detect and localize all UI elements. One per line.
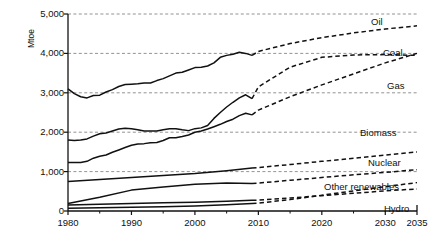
series-line-historical-coal	[68, 95, 252, 141]
series-line-historical-biomass	[68, 168, 252, 181]
x-tick-label: 2010	[238, 217, 278, 228]
x-tick-label: 1980	[48, 217, 88, 228]
y-tick-label: 4,000	[12, 47, 64, 58]
x-tick-label: 2035	[397, 217, 436, 228]
y-tick-label: 3,000	[12, 87, 64, 98]
y-tick-label: 0	[12, 205, 64, 216]
x-tick-label: 2000	[175, 217, 215, 228]
series-label-nuclear: Nuclear	[368, 157, 401, 168]
y-axis-title: Mtoe	[26, 29, 36, 48]
energy-mix-line-chart: 01,0002,0003,0004,0005,000 1980199020002…	[0, 0, 436, 249]
series-label-gas: Gas	[387, 80, 404, 91]
y-tick-label: 5,000	[12, 8, 64, 19]
series-line-historical-nuclear	[68, 183, 252, 203]
series-label-other-renewables: Other renewables	[324, 181, 399, 192]
series-line-historical-gas	[68, 113, 252, 162]
x-tick-label: 2020	[302, 217, 342, 228]
gridlines-group	[68, 14, 417, 172]
series-label-hydro: Hydro	[384, 203, 409, 214]
chart-plot-area	[0, 0, 436, 249]
y-tick-label: 1,000	[12, 166, 64, 177]
y-tick-label: 2,000	[12, 126, 64, 137]
series-label-biomass: Biomass	[360, 127, 396, 138]
series-label-coal: Coal	[383, 47, 403, 58]
series-label-oil: Oil	[371, 16, 383, 27]
series-line-historical-oil	[68, 52, 252, 98]
x-tick-label: 1990	[111, 217, 151, 228]
